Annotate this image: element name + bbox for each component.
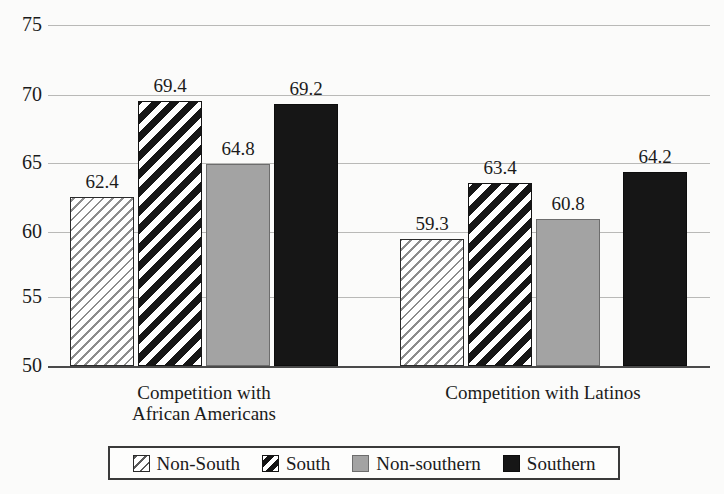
y-tick-label-55: 55: [4, 286, 42, 306]
x-category-label-african-americans: Competition with African Americans: [124, 382, 284, 425]
bar-value-label: 69.2: [274, 79, 338, 98]
bar-non-southern-latinos[interactable]: [536, 219, 600, 366]
x-category-label-latinos: Competition with Latinos: [443, 382, 643, 403]
legend-item-south[interactable]: South: [262, 454, 330, 473]
gridline-75: [48, 25, 710, 26]
bar-value-label: 60.8: [536, 194, 600, 213]
bar-south-african-americans[interactable]: [138, 101, 202, 366]
y-tick-label-75: 75: [4, 14, 42, 34]
chart-figure: 75 70 65 60 55 50 62.4 69.4 64.8 69.2 59…: [0, 0, 724, 494]
bar-non-southern-african-americans[interactable]: [206, 164, 270, 366]
y-tick-label-65: 65: [4, 152, 42, 172]
y-tick-label-60: 60: [4, 221, 42, 241]
y-tick-label-70: 70: [4, 84, 42, 104]
bar-southern-african-americans[interactable]: [274, 104, 338, 366]
gridline-70: [48, 95, 710, 96]
legend-label: South: [286, 454, 330, 473]
legend-swatch-black-fill-icon: [503, 455, 520, 472]
bar-value-label: 69.4: [138, 76, 202, 95]
bar-value-label: 64.8: [206, 139, 270, 158]
axis-baseline: [48, 366, 710, 368]
legend-label: Non-South: [157, 454, 240, 473]
y-tick-label-50: 50: [4, 355, 42, 375]
legend-label: Non-southern: [376, 454, 480, 473]
bar-southern-latinos[interactable]: [623, 172, 687, 366]
bar-value-label: 63.4: [468, 158, 532, 177]
bar-value-label: 64.2: [623, 147, 687, 166]
chart-legend: Non-South South Non-southern Southern: [108, 446, 620, 480]
legend-item-southern[interactable]: Southern: [503, 454, 596, 473]
bar-value-label: 62.4: [70, 172, 134, 191]
legend-swatch-gray-fill-icon: [352, 455, 369, 472]
legend-label: Southern: [527, 454, 596, 473]
legend-item-non-southern[interactable]: Non-southern: [352, 454, 480, 473]
legend-swatch-light-hatch-icon: [133, 455, 150, 472]
bar-south-latinos[interactable]: [468, 183, 532, 366]
bar-non-south-african-americans[interactable]: [70, 197, 134, 366]
bar-non-south-latinos[interactable]: [400, 239, 464, 366]
bar-value-label: 59.3: [400, 214, 464, 233]
legend-item-non-south[interactable]: Non-South: [133, 454, 240, 473]
plot-area: 75 70 65 60 55 50 62.4 69.4 64.8 69.2 59…: [0, 0, 724, 494]
legend-swatch-bold-hatch-icon: [262, 455, 279, 472]
